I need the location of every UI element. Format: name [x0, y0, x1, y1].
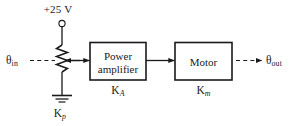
- kp-symbol: K: [54, 107, 62, 119]
- power-amplifier-label: Power amplifier: [90, 50, 146, 75]
- ka-subscript: A: [120, 89, 125, 98]
- power-amplifier-label-line1: Power: [90, 50, 146, 63]
- block-diagram: +25 V θin Kp Power amplifier KA Motor Km…: [0, 0, 300, 126]
- power-amplifier-label-line2: amplifier: [90, 63, 146, 76]
- power-amplifier-gain-label: KA: [90, 84, 146, 98]
- supply-voltage-label: +25 V: [0, 4, 116, 16]
- kp-subscript: p: [62, 112, 66, 121]
- km-subscript: m: [205, 89, 211, 98]
- motor-label: Motor: [175, 56, 232, 69]
- potentiometer-gain-label: Kp: [40, 107, 80, 121]
- km-symbol: K: [196, 84, 204, 96]
- ka-symbol: K: [111, 84, 119, 96]
- motor-label-line1: Motor: [175, 56, 232, 69]
- theta-out-subscript: out: [272, 59, 283, 68]
- ground-symbol: [52, 96, 72, 103]
- potentiometer-resistor-zigzag: [57, 45, 68, 72]
- supply-terminal-node: [59, 20, 65, 26]
- motor-gain-label: Km: [175, 84, 232, 98]
- theta-in-label: θin: [6, 54, 18, 68]
- theta-in-subscript: in: [12, 59, 18, 68]
- theta-out-label: θout: [266, 54, 282, 68]
